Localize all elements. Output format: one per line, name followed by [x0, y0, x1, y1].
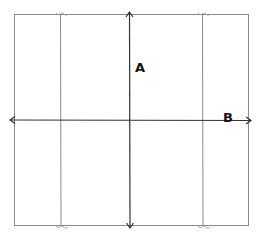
label-b: B [223, 111, 233, 124]
label-a: A [135, 61, 145, 74]
fold-line-left [56, 13, 68, 229]
horizontal-arrow-b [10, 117, 251, 125]
